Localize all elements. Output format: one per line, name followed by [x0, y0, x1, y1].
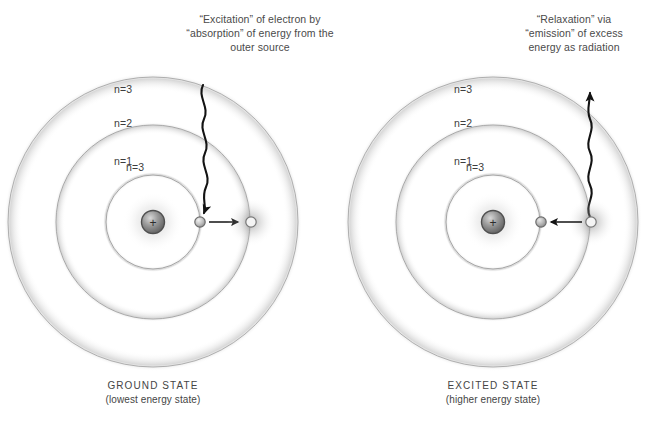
- caption-excitation-line-2: “absorption” of energy from the: [148, 26, 372, 40]
- state-label-excited: EXCITED STATE (higher energy state): [373, 380, 613, 405]
- right-shell-label-n1: n=1: [454, 155, 472, 167]
- atom-diagram-ground-state: + n=3: [0, 67, 308, 377]
- electron-origin: [195, 217, 205, 227]
- right-shell-label-n2: n=2: [454, 117, 472, 129]
- atom-svg-excited: +: [338, 67, 648, 377]
- caption-relaxation-line-3: energy as radiation: [478, 40, 670, 54]
- state-title-excited: EXCITED STATE: [373, 380, 613, 391]
- left-shell-label-n2: n=2: [114, 117, 132, 129]
- diagram-canvas: “Excitation” of electron by “absorption”…: [0, 0, 671, 427]
- state-title-ground: GROUND STATE: [33, 380, 273, 391]
- electron-origin: [586, 217, 596, 227]
- left-shell-label-n3: n=3: [114, 83, 132, 95]
- state-sub-excited: (higher energy state): [373, 394, 613, 405]
- state-label-ground: GROUND STATE (lowest energy state): [33, 380, 273, 405]
- caption-relaxation: “Relaxation” via “emission” of excess en…: [478, 12, 670, 54]
- nucleus-charge-label: +: [149, 216, 156, 230]
- caption-excitation-line-1: “Excitation” of electron by: [148, 12, 372, 26]
- state-sub-ground: (lowest energy state): [33, 394, 273, 405]
- nucleus-charge-label: +: [489, 216, 496, 230]
- left-shell-label-n1: n=1: [114, 155, 132, 167]
- caption-excitation: “Excitation” of electron by “absorption”…: [148, 12, 372, 54]
- caption-relaxation-line-1: “Relaxation” via: [478, 12, 670, 26]
- electron-destination: [246, 217, 256, 227]
- electron-destination: [536, 217, 546, 227]
- caption-relaxation-line-2: “emission” of excess: [478, 26, 670, 40]
- right-shell-label-n3: n=3: [454, 83, 472, 95]
- atom-diagram-excited-state: + n=3: [338, 67, 648, 377]
- caption-excitation-line-3: outer source: [148, 40, 372, 54]
- atom-svg-ground: +: [0, 67, 308, 377]
